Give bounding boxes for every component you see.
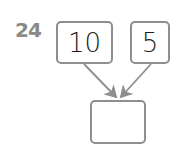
input-box-2: 5 (130, 21, 170, 64)
input-value-2: 5 (142, 28, 159, 58)
arrow-left (84, 64, 116, 97)
arrow-right (121, 64, 151, 97)
input-value-1: 10 (68, 28, 101, 58)
answer-box[interactable] (90, 100, 146, 144)
input-box-1: 10 (56, 21, 113, 64)
